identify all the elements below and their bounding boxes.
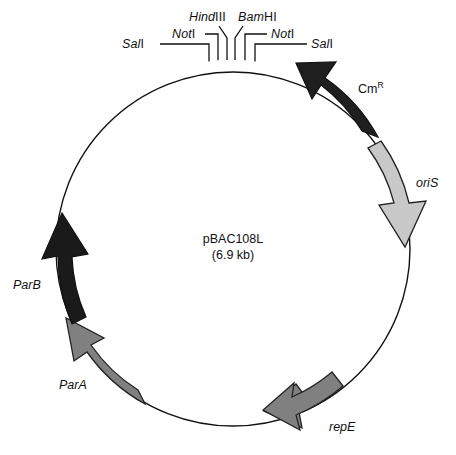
gene-arrow-oris <box>368 141 426 247</box>
gene-label-para: ParA <box>59 378 87 392</box>
restriction-site-label-not-left: NotI <box>172 27 195 41</box>
not-right-numeral: I <box>291 27 295 41</box>
leader-bamhi <box>235 26 243 60</box>
restriction-site-label-bamhi: BamHI <box>238 10 277 24</box>
cmr-superscript: R <box>377 80 383 90</box>
gene-label-cmr: CmR <box>358 82 384 96</box>
sal-left-numeral: I <box>140 37 144 51</box>
bamhi-numeral: HI <box>264 10 277 24</box>
leader-sal-right <box>255 44 307 62</box>
gene-label-oris: oriS <box>416 176 438 190</box>
sal-right-numeral: I <box>329 37 333 51</box>
restriction-site-label-not-right: NotI <box>271 27 294 41</box>
hindiii-numeral: III <box>215 10 226 24</box>
leader-not-right <box>245 34 267 60</box>
gene-arrow-cmr <box>296 62 378 137</box>
gene-label-repe: repE <box>329 420 355 434</box>
gene-label-parb: ParB <box>13 278 41 292</box>
restriction-site-label-sal-left: SalI <box>122 37 144 51</box>
restriction-site-label-hindiii: HindIII <box>189 10 226 24</box>
plasmid-size-label: (6.9 kb) <box>163 248 303 262</box>
plasmid-map-figure: SalI NotI HindIII BamHI NotI SalI CmR or… <box>0 0 456 455</box>
not-left-numeral: I <box>192 27 196 41</box>
plasmid-name-label: pBAC108L <box>163 232 303 246</box>
leader-not-left <box>205 34 218 60</box>
leader-sal-left <box>160 44 209 62</box>
restriction-site-label-sal-right: SalI <box>311 37 333 51</box>
leader-hindiii <box>219 26 227 60</box>
gene-arrow-parb <box>42 213 88 324</box>
